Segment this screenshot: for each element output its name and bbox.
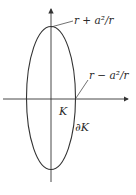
leader-line-top xyxy=(51,21,73,27)
label-region: K xyxy=(58,105,68,118)
label-boundary: ∂K xyxy=(75,121,90,134)
leader-line-right xyxy=(76,80,88,98)
label-top: r + a²/r xyxy=(74,14,114,26)
label-right: r − a²/r xyxy=(89,69,129,81)
diagram-canvas: r + a²/r r − a²/r K ∂K xyxy=(0,0,136,195)
